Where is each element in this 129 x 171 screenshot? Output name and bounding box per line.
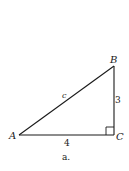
side-label-4: 4 bbox=[64, 138, 70, 148]
right-angle-marker-icon bbox=[106, 127, 114, 135]
side-label-3: 3 bbox=[115, 95, 121, 105]
side-hypotenuse-c bbox=[19, 66, 114, 135]
vertex-label-b: B bbox=[109, 54, 117, 65]
figure-caption: a. bbox=[62, 152, 70, 162]
vertex-label-c: C bbox=[116, 131, 124, 142]
side-label-c: c bbox=[62, 91, 67, 100]
vertex-label-a: A bbox=[8, 130, 16, 141]
right-triangle-diagram: B A C c 3 4 a. bbox=[0, 0, 129, 171]
